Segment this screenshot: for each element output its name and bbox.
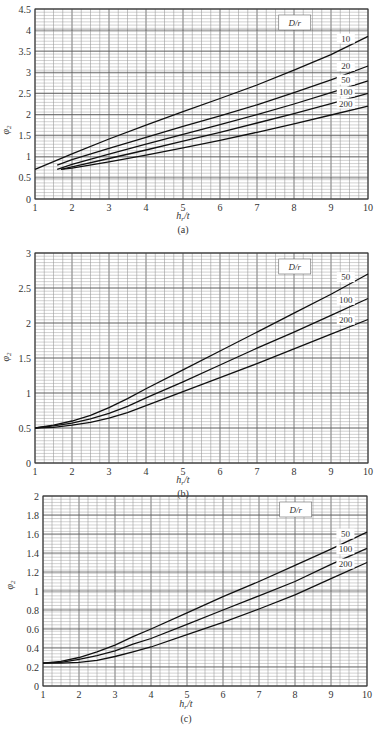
panel-label: (c) [180, 713, 191, 725]
x-tick-label: 1 [33, 466, 38, 477]
y-tick-label: 2.5 [19, 88, 32, 99]
series-label: 200 [339, 99, 353, 109]
y-tick-label: 3 [26, 248, 31, 259]
y-tick-label: 2 [34, 491, 39, 502]
series-label: 10 [341, 34, 351, 44]
chart-panel-1: 1234567891000.511.522.533.544.5hr/tφ2(a)… [0, 4, 373, 237]
series-label: 20 [341, 61, 351, 71]
grid [35, 253, 368, 463]
y-tick-label: 2 [26, 109, 31, 120]
y-tick-label: 0 [34, 681, 39, 692]
x-tick-label: 3 [107, 466, 112, 477]
x-tick-label: 7 [257, 689, 262, 700]
series-label: 50 [341, 529, 351, 539]
series-label: 50 [341, 75, 351, 85]
x-tick-label: 10 [363, 466, 373, 477]
x-tick-label: 9 [329, 689, 334, 700]
y-tick-label: 1.2 [27, 567, 40, 578]
x-tick-label: 9 [329, 202, 334, 213]
y-tick-label: 0.8 [27, 605, 40, 616]
x-tick-label: 4 [144, 466, 149, 477]
y-axis-label: φ2 [4, 580, 17, 590]
x-tick-label: 8 [292, 466, 297, 477]
series-label: 50 [341, 272, 351, 282]
grid [35, 9, 368, 199]
x-tick-label: 3 [113, 689, 118, 700]
y-tick-label: 1 [26, 388, 31, 399]
series-label: 100 [339, 544, 353, 554]
x-tick-label: 10 [362, 689, 372, 700]
panel-label: (a) [177, 224, 188, 236]
y-tick-label: 1 [26, 151, 31, 162]
y-tick-label: 0.4 [27, 643, 40, 654]
x-tick-label: 7 [255, 466, 260, 477]
y-tick-label: 0.6 [27, 624, 40, 635]
y-tick-label: 0.5 [19, 423, 32, 434]
legend-title: D/r [288, 505, 302, 515]
y-tick-label: 0.5 [19, 172, 32, 183]
series-label: 100 [339, 87, 353, 97]
y-tick-label: 1 [34, 586, 39, 597]
x-tick-label: 6 [218, 202, 223, 213]
x-tick-label: 6 [221, 689, 226, 700]
series-label: 100 [339, 295, 353, 305]
chart-panel-3: 1234567891000.20.40.60.811.21.41.61.82hr… [4, 491, 372, 726]
y-tick-label: 4 [26, 25, 31, 36]
y-tick-label: 3 [26, 67, 31, 78]
x-tick-label: 9 [329, 466, 334, 477]
x-tick-label: 2 [77, 689, 82, 700]
x-axis-label: hr/t [179, 698, 193, 711]
y-tick-label: 2 [26, 318, 31, 329]
x-tick-label: 3 [107, 202, 112, 213]
x-axis-label: hr/t [176, 210, 190, 223]
series-label: 200 [339, 559, 353, 569]
x-tick-label: 2 [70, 466, 75, 477]
x-tick-label: 10 [363, 202, 373, 213]
x-tick-label: 4 [149, 689, 154, 700]
y-tick-label: 0 [26, 194, 31, 205]
figure: 1234567891000.511.522.533.544.5hr/tφ2(a)… [0, 0, 381, 740]
x-tick-label: 2 [70, 202, 75, 213]
y-tick-label: 1.6 [27, 529, 40, 540]
x-tick-label: 1 [41, 689, 46, 700]
x-axis-label: hr/t [176, 474, 190, 487]
y-tick-label: 0 [26, 458, 31, 469]
y-tick-label: 1.4 [27, 548, 40, 559]
y-tick-label: 1.5 [19, 130, 32, 141]
x-tick-label: 4 [144, 202, 149, 213]
y-tick-label: 0.2 [27, 662, 40, 673]
chart-panel-2: 1234567891000.511.522.53hr/tφ2(b)D/r5010… [0, 248, 373, 501]
x-tick-label: 8 [293, 689, 298, 700]
y-axis-label: φ2 [0, 352, 13, 362]
y-tick-label: 2.5 [19, 283, 32, 294]
grid [43, 496, 367, 686]
y-tick-label: 1.8 [27, 510, 40, 521]
y-axis-label: φ2 [0, 125, 13, 135]
x-tick-label: 6 [218, 466, 223, 477]
y-tick-label: 4.5 [19, 4, 32, 15]
legend-title: D/r [287, 262, 301, 272]
y-tick-label: 1.5 [19, 353, 32, 364]
series-line-20 [57, 66, 368, 165]
x-tick-label: 8 [292, 202, 297, 213]
x-tick-label: 7 [255, 202, 260, 213]
x-tick-label: 1 [33, 202, 38, 213]
series-label: 200 [339, 315, 353, 325]
legend-title: D/r [287, 18, 301, 28]
y-tick-label: 3.5 [19, 46, 32, 57]
